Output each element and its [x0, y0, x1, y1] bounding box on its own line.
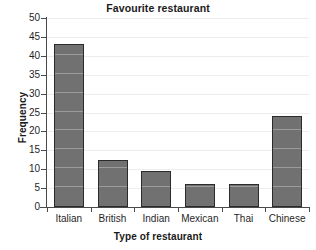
bar-gridline	[55, 54, 83, 55]
bar-gridline	[273, 148, 301, 149]
y-tick-mark	[41, 18, 47, 19]
y-tick-label: 30	[2, 89, 40, 99]
gridline	[47, 18, 309, 19]
x-tick-mark	[222, 208, 223, 212]
bar	[229, 184, 259, 207]
x-tick-mark	[91, 208, 92, 212]
y-tick-mark	[41, 94, 47, 95]
bar-gridline	[55, 167, 83, 168]
y-tick-mark	[41, 37, 47, 38]
y-tick-mark	[41, 188, 47, 189]
bar	[98, 160, 128, 207]
x-axis-line	[40, 207, 310, 208]
y-tick-label: 40	[2, 51, 40, 61]
x-axis-title: Type of restaurant	[0, 231, 316, 242]
y-tick-label: 50	[2, 13, 40, 23]
bar-gridline	[273, 186, 301, 187]
bar	[185, 184, 215, 207]
x-tick-label: Italian	[47, 213, 91, 225]
gridline	[47, 131, 309, 132]
y-tick-mark	[41, 169, 47, 170]
y-tick-label: 25	[2, 108, 40, 118]
x-tick-mark	[47, 208, 48, 212]
x-tick-label: Thai	[222, 213, 266, 225]
y-tick-label: 15	[2, 145, 40, 155]
bar-gridline	[230, 186, 258, 187]
bar-gridline	[273, 129, 301, 130]
gridline	[47, 188, 309, 189]
x-tick-label: Chinese	[265, 213, 309, 225]
y-tick-label: 20	[2, 126, 40, 136]
y-tick-label: 0	[2, 202, 40, 212]
x-tick-label: Mexican	[178, 213, 222, 225]
y-tick-label: 35	[2, 70, 40, 80]
y-tick-label: 45	[2, 32, 40, 42]
gridline	[47, 169, 309, 170]
bar-gridline	[55, 186, 83, 187]
bar-gridline	[55, 148, 83, 149]
gridline	[47, 37, 309, 38]
chart-title: Favourite restaurant	[0, 1, 316, 15]
bar-gridline	[186, 186, 214, 187]
y-tick-mark	[41, 113, 47, 114]
y-tick-label: 10	[2, 164, 40, 174]
bar-gridline	[55, 111, 83, 112]
gridline	[47, 75, 309, 76]
gridline	[47, 94, 309, 95]
x-tick-label: Indian	[134, 213, 178, 225]
y-tick-label: 5	[2, 183, 40, 193]
y-tick-mark	[41, 56, 47, 57]
gridline	[47, 113, 309, 114]
x-tick-label: British	[91, 213, 135, 225]
bar-gridline	[99, 167, 127, 168]
bar	[54, 44, 84, 207]
bar-chart: Favourite restaurant Frequency Type of r…	[0, 0, 316, 250]
bar-gridline	[273, 167, 301, 168]
bar-gridline	[55, 92, 83, 93]
y-tick-mark	[41, 131, 47, 132]
x-tick-mark	[265, 208, 266, 212]
bar-gridline	[55, 73, 83, 74]
x-tick-mark	[309, 208, 310, 212]
y-tick-mark	[41, 75, 47, 76]
x-tick-mark	[178, 208, 179, 212]
bar-gridline	[142, 186, 170, 187]
bar-gridline	[55, 129, 83, 130]
y-tick-mark	[41, 150, 47, 151]
gridline	[47, 150, 309, 151]
bar	[272, 116, 302, 207]
x-tick-mark	[134, 208, 135, 212]
gridline	[47, 56, 309, 57]
bar	[141, 171, 171, 207]
plot-area	[47, 18, 309, 207]
bar-gridline	[99, 186, 127, 187]
